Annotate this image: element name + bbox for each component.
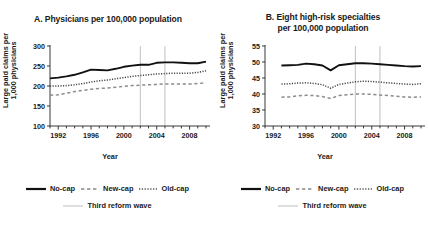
svg-text:50: 50 <box>252 58 260 67</box>
panel-b-legend-row-series: No-cap New-cap Old-cap <box>215 182 429 195</box>
svg-text:35: 35 <box>252 106 260 115</box>
svg-text:1996: 1996 <box>83 131 99 140</box>
svg-text:30: 30 <box>252 122 260 131</box>
legend-label-third-reform-wave: Third reform wave <box>302 201 366 210</box>
svg-text:40: 40 <box>252 90 260 99</box>
panel-a-chart-svg: 10015020025030019921996200020042008 <box>0 40 214 148</box>
svg-text:300: 300 <box>33 42 45 51</box>
panel-a-title: A. Physicians per 100,000 population <box>8 14 208 25</box>
legend-item-old-cap: Old-cap <box>353 184 404 193</box>
legend-label-new-cap: New-cap <box>103 184 133 193</box>
panel-a-x-axis-label: Year <box>20 152 200 161</box>
svg-text:2000: 2000 <box>116 131 132 140</box>
svg-text:45: 45 <box>252 74 260 83</box>
svg-text:200: 200 <box>33 82 45 91</box>
svg-text:2000: 2000 <box>331 131 347 140</box>
legend-label-no-cap: No-cap <box>265 184 290 193</box>
panel-a-legend-row-reform: Third reform wave <box>0 199 214 212</box>
svg-text:2008: 2008 <box>182 131 198 140</box>
svg-text:1992: 1992 <box>50 131 66 140</box>
panel-b-legend: No-cap New-cap Old-cap Third reform wave <box>215 182 429 212</box>
legend-dotted-line-icon <box>353 185 373 193</box>
legend-reform-line-icon <box>62 202 84 210</box>
legend-item-third-reform-wave: Third reform wave <box>277 201 366 210</box>
svg-text:2008: 2008 <box>397 131 413 140</box>
legend-solid-line-icon <box>25 185 47 193</box>
legend-reform-line-icon <box>277 202 299 210</box>
svg-text:55: 55 <box>252 42 260 51</box>
panel-a-title-line1: A. Physicians per 100,000 population <box>34 14 182 24</box>
legend-item-third-reform-wave: Third reform wave <box>62 201 151 210</box>
panel-b-legend-row-reform: Third reform wave <box>215 199 429 212</box>
svg-text:1992: 1992 <box>265 131 281 140</box>
legend-label-old-cap: Old-cap <box>161 184 189 193</box>
legend-label-third-reform-wave: Third reform wave <box>87 201 151 210</box>
panel-a: A. Physicians per 100,000 population Lar… <box>0 0 214 228</box>
legend-label-old-cap: Old-cap <box>376 184 404 193</box>
legend-label-new-cap: New-cap <box>318 184 348 193</box>
svg-text:150: 150 <box>33 102 45 111</box>
legend-dotted-line-icon <box>138 185 158 193</box>
svg-text:100: 100 <box>33 122 45 131</box>
legend-item-no-cap: No-cap <box>240 184 290 193</box>
panel-b-title-line1: B. Eight high-risk specialties <box>266 12 380 22</box>
panel-b-plot-area: Large paid claims per 1,000 physicians 3… <box>215 40 429 148</box>
legend-item-new-cap: New-cap <box>80 184 133 193</box>
panel-a-legend-row-series: No-cap New-cap Old-cap <box>0 182 214 195</box>
svg-text:2004: 2004 <box>149 131 165 140</box>
legend-label-no-cap: No-cap <box>50 184 75 193</box>
legend-solid-line-icon <box>240 185 262 193</box>
panel-b-chart-svg: 30354045505519921996200020042008 <box>215 40 429 148</box>
figure-two-panel-line-charts: A. Physicians per 100,000 population Lar… <box>0 0 429 228</box>
panel-b-x-axis-label: Year <box>235 152 415 161</box>
panel-b: B. Eight high-risk specialties per 100,0… <box>215 0 429 228</box>
legend-dashed-line-icon <box>295 185 315 193</box>
legend-item-new-cap: New-cap <box>295 184 348 193</box>
legend-dashed-line-icon <box>80 185 100 193</box>
svg-text:2004: 2004 <box>364 131 380 140</box>
panel-b-title-line2: per 100,000 population <box>278 23 369 33</box>
panel-a-plot-area: Large paid claims per 1,000 physicians 1… <box>0 40 214 148</box>
panel-b-title: B. Eight high-risk specialties per 100,0… <box>223 12 423 34</box>
svg-text:1996: 1996 <box>298 131 314 140</box>
legend-item-old-cap: Old-cap <box>138 184 189 193</box>
legend-item-no-cap: No-cap <box>25 184 75 193</box>
svg-text:250: 250 <box>33 62 45 71</box>
panel-a-legend: No-cap New-cap Old-cap Third reform wave <box>0 182 214 212</box>
